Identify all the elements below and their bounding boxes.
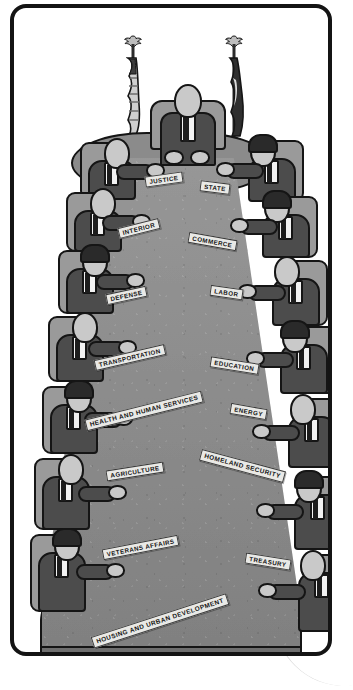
seat-left-4 <box>44 310 126 384</box>
hair <box>294 470 324 489</box>
us-flag-banner <box>126 56 146 136</box>
seat-left-7 <box>26 528 114 614</box>
seat-right-4 <box>252 320 328 396</box>
seat-head <box>146 78 226 164</box>
seat-right-5 <box>258 392 328 470</box>
seat-right-3 <box>244 254 326 328</box>
hair <box>80 244 110 263</box>
hand <box>106 563 125 578</box>
hand-left <box>164 150 184 165</box>
hair <box>52 528 82 547</box>
seat-left-6 <box>30 452 116 532</box>
illustration-scene: JUSTICESTATEINTERIORCOMMERCEDEFENSELABOR… <box>14 8 328 652</box>
seat-right-6 <box>262 470 328 552</box>
head <box>300 550 326 581</box>
hand <box>216 162 235 177</box>
presidential-flag-banner <box>226 56 246 136</box>
head <box>58 454 84 485</box>
hand <box>252 424 271 439</box>
hair <box>262 190 292 209</box>
table-near-edge <box>42 646 300 652</box>
hand <box>256 503 275 518</box>
hand-right <box>190 150 210 165</box>
seat-left-3 <box>54 244 134 316</box>
hand <box>108 485 127 500</box>
head <box>274 256 300 287</box>
hand <box>230 218 249 233</box>
seat-right-2 <box>236 190 316 260</box>
hair <box>64 380 94 399</box>
hair <box>248 134 278 153</box>
illustration-frame: JUSTICESTATEINTERIORCOMMERCEDEFENSELABOR… <box>10 4 332 656</box>
head <box>72 312 98 343</box>
head <box>174 84 202 118</box>
hand <box>258 583 277 598</box>
hair <box>280 320 310 339</box>
head <box>290 394 316 425</box>
necktie <box>183 116 189 142</box>
